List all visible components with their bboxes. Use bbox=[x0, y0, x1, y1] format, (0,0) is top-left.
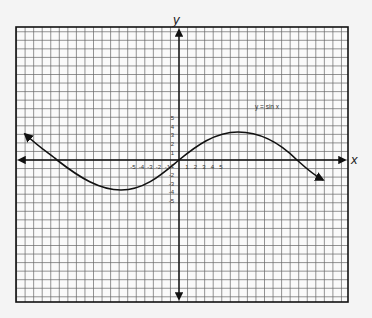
sine-graph: x y -5-4-3-2-112345 54321-1-2-3-4-5 y = … bbox=[0, 0, 372, 318]
x-axis-label: x bbox=[350, 152, 358, 167]
curve-annotation: y = sin x bbox=[255, 103, 280, 111]
y-tick-label: -3 bbox=[169, 181, 175, 187]
graph-paper bbox=[16, 27, 348, 302]
y-tick-label: -1 bbox=[169, 163, 175, 169]
y-tick-label: -2 bbox=[169, 172, 175, 178]
x-tick-label: -5 bbox=[130, 164, 136, 170]
y-tick-label: -4 bbox=[169, 189, 175, 195]
x-tick-label: -2 bbox=[156, 164, 162, 170]
y-tick-label: -5 bbox=[169, 198, 175, 204]
x-tick-label: -4 bbox=[139, 164, 145, 170]
x-tick-label: -3 bbox=[147, 164, 153, 170]
y-axis-label: y bbox=[172, 12, 181, 27]
